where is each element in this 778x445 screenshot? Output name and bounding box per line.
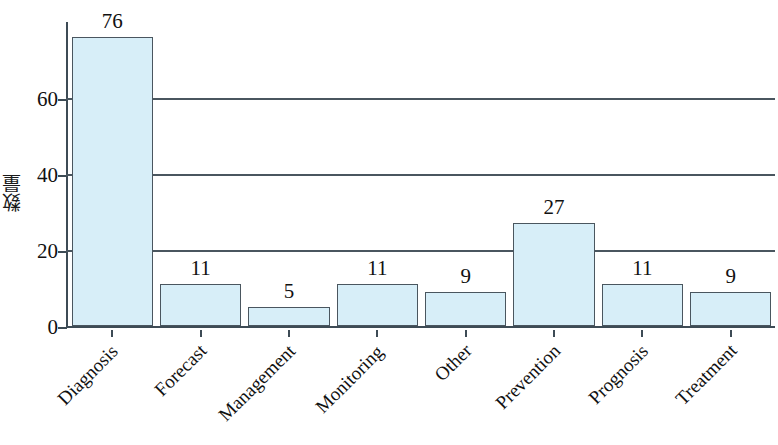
x-tick-mark [641, 330, 643, 337]
x-tick-mark [288, 330, 290, 337]
bar-value-label: 9 [425, 266, 506, 287]
x-tick-mark [111, 330, 113, 337]
x-axis-label: Diagnosis [54, 341, 122, 409]
bar-group: 76 [72, 22, 153, 326]
bar [602, 284, 683, 326]
bar [160, 284, 241, 326]
bar-value-label: 27 [513, 197, 594, 218]
x-tick-mark [376, 330, 378, 337]
bar-chart: 数量 0204060 7611511927119 DiagnosisForeca… [0, 0, 778, 445]
bar [425, 292, 506, 326]
bar [248, 307, 329, 326]
bar-group: 9 [690, 22, 771, 326]
bar-group: 11 [602, 22, 683, 326]
bar-series: 7611511927119 [68, 22, 775, 326]
plot-area: 7611511927119 [66, 22, 775, 328]
y-tick-label: 0 [18, 317, 58, 338]
x-axis-label: Treatment [672, 341, 741, 410]
x-tick-mark [465, 330, 467, 337]
x-tick-mark [553, 330, 555, 337]
x-axis-label: Prevention [492, 341, 564, 413]
bar-value-label: 5 [248, 281, 329, 302]
bar-group: 9 [425, 22, 506, 326]
x-axis-line [66, 326, 775, 328]
bar [337, 284, 418, 326]
x-tick-mark [730, 330, 732, 337]
x-axis-label: Prognosis [585, 341, 652, 408]
x-axis-label: Management [215, 341, 299, 425]
bar-group: 11 [160, 22, 241, 326]
bar-value-label: 11 [160, 258, 241, 279]
x-axis-label: Forecast [151, 341, 211, 401]
bar-group: 27 [513, 22, 594, 326]
x-axis-label: Monitoring [312, 341, 387, 416]
bar [513, 223, 594, 326]
bar [690, 292, 771, 326]
y-axis-title: 数量 [2, 148, 26, 238]
bar-group: 11 [337, 22, 418, 326]
y-tick-label: 60 [18, 89, 58, 110]
bar-value-label: 11 [602, 258, 683, 279]
x-axis-label: Other [431, 341, 476, 386]
y-tick-label: 40 [18, 165, 58, 186]
bar [72, 37, 153, 326]
bar-value-label: 9 [690, 266, 771, 287]
bar-value-label: 76 [72, 11, 153, 32]
bar-group: 5 [248, 22, 329, 326]
y-tick-label: 20 [18, 241, 58, 262]
bar-value-label: 11 [337, 258, 418, 279]
x-tick-mark [200, 330, 202, 337]
